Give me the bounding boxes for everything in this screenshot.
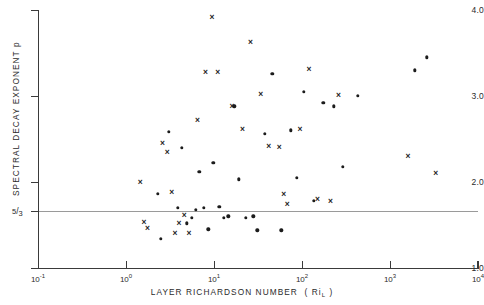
data-point-dot: [332, 105, 335, 108]
data-point-dot: [218, 205, 221, 208]
x-tick: [390, 261, 391, 269]
data-point-cross: ×: [296, 124, 305, 133]
data-point-dot: [263, 132, 266, 135]
y-tick-label: 4.0: [472, 5, 484, 15]
data-point-dot: [211, 161, 214, 164]
data-point-dot: [156, 192, 159, 195]
data-point-cross: ×: [180, 210, 189, 219]
data-point-dot: [180, 146, 183, 149]
data-point-dot: [295, 176, 298, 179]
x-axis-title: LAYER RICHARDSON NUMBER ( RiL ): [0, 287, 484, 297]
x-tick-label: 103: [384, 273, 396, 284]
y-tick-label: 2.0: [472, 177, 484, 187]
data-point-cross: ×: [175, 219, 184, 228]
data-point-dot: [198, 170, 201, 173]
data-point-cross: ×: [246, 37, 255, 46]
data-point-cross: ×: [185, 228, 194, 237]
data-point-cross: ×: [279, 190, 288, 199]
data-point-dot: [159, 237, 162, 240]
data-point-cross: ×: [283, 200, 292, 209]
data-point-dot: [322, 101, 325, 104]
data-point-cross: ×: [208, 12, 217, 21]
data-point-cross: ×: [326, 196, 335, 205]
five-thirds-tick: [31, 211, 39, 212]
data-point-dot: [271, 72, 274, 75]
data-point-dot: [190, 216, 193, 219]
data-point-cross: ×: [404, 152, 413, 161]
data-point-cross: ×: [256, 90, 265, 99]
data-point-dot: [167, 130, 170, 133]
data-point-cross: ×: [143, 223, 152, 232]
data-point-dot: [255, 228, 258, 231]
data-point-dot: [202, 206, 205, 209]
x-tick: [302, 261, 303, 269]
five-thirds-label: 5/3: [12, 206, 23, 216]
data-point-cross: ×: [163, 147, 172, 156]
data-point-dot: [222, 216, 225, 219]
data-point-dot: [252, 215, 255, 218]
x-tick: [126, 261, 127, 269]
data-point-cross: ×: [275, 142, 284, 151]
x-tick-label: 104: [472, 273, 484, 284]
data-point-cross: ×: [305, 65, 314, 74]
x-tick-label: 101: [208, 273, 220, 284]
data-point-cross: ×: [431, 168, 440, 177]
data-point-cross: ×: [167, 188, 176, 197]
data-point-dot: [413, 68, 416, 71]
data-point-cross: ×: [238, 124, 247, 133]
five-thirds-reference-line: [31, 211, 478, 212]
data-point-dot: [226, 215, 229, 218]
data-point-dot: [289, 129, 292, 132]
y-axis-title: SPECTRAL DECAY EXPONENT p: [11, 41, 21, 196]
data-point-dot: [356, 94, 359, 97]
data-point-dot: [185, 222, 188, 225]
x-tick-label: 100: [120, 273, 132, 284]
data-point-cross: ×: [213, 67, 222, 76]
data-point-cross: ×: [136, 178, 145, 187]
y-tick: [31, 96, 39, 97]
y-tick: [31, 182, 39, 183]
data-point-dot: [206, 228, 209, 231]
data-point-dot: [341, 165, 344, 168]
x-axis-line: [38, 268, 478, 269]
five-thirds-denominator: 3: [19, 209, 23, 218]
y-tick: [31, 10, 39, 11]
data-point-dot: [237, 178, 240, 181]
data-point-dot: [244, 216, 247, 219]
x-tick-label: 10-1: [31, 273, 45, 284]
data-point-cross: ×: [201, 67, 210, 76]
data-point-dot: [302, 90, 305, 93]
x-tick: [478, 261, 479, 269]
spectral-decay-scatter-figure: 5/3 4.03.02.01.0 10-1100101102103104 ×××…: [0, 0, 484, 305]
data-point-cross: ×: [193, 116, 202, 125]
data-point-cross: ×: [264, 141, 273, 150]
data-point-cross: ×: [171, 228, 180, 237]
data-point-cross: ×: [334, 91, 343, 100]
x-tick: [214, 261, 215, 269]
y-tick-label: 3.0: [472, 91, 484, 101]
data-point-dot: [176, 206, 179, 209]
data-point-dot: [425, 56, 428, 59]
x-tick-label: 102: [296, 273, 308, 284]
x-tick: [38, 261, 39, 269]
y-axis-line: [38, 10, 39, 268]
data-point-dot: [279, 228, 282, 231]
